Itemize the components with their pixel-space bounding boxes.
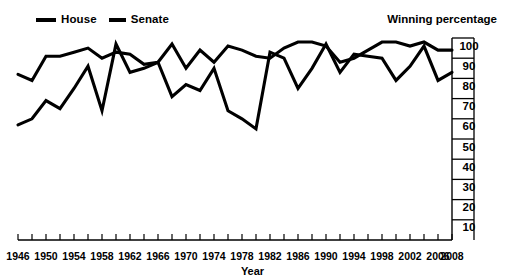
chart-container: House Senate Winning percentage 10090807… — [0, 0, 505, 279]
y-tick-label: 50 — [456, 142, 482, 154]
y-tick-label: 90 — [456, 61, 482, 73]
x-tick-label: 2008 — [435, 251, 469, 262]
y-tick-label: 60 — [456, 121, 482, 133]
y-tick-label: 80 — [456, 81, 482, 93]
y-tick-label: 10 — [456, 222, 482, 234]
y-tick-label: 30 — [456, 182, 482, 194]
chart-plot-area — [0, 0, 505, 279]
series-line-senate — [18, 44, 452, 129]
y-tick-label: 20 — [456, 202, 482, 214]
y-tick-label: 40 — [456, 162, 482, 174]
y-tick-label: 70 — [456, 101, 482, 113]
x-tick-marks — [18, 234, 452, 240]
series-group — [18, 42, 452, 129]
y-tick-label: 100 — [456, 41, 482, 53]
x-axis-title: Year — [0, 266, 505, 277]
